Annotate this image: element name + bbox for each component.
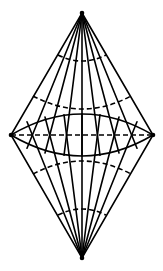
bicone-wireframe <box>0 0 163 271</box>
meridian-upper <box>82 13 119 153</box>
vertex-left <box>9 133 14 138</box>
meridian-upper <box>45 13 82 153</box>
meridian-lower <box>45 117 82 258</box>
vertex-right <box>151 133 156 138</box>
bicone-diagram <box>0 0 163 271</box>
vertex-top <box>80 11 85 16</box>
meridian-lower <box>82 117 119 258</box>
vertex-bottom <box>80 256 85 261</box>
